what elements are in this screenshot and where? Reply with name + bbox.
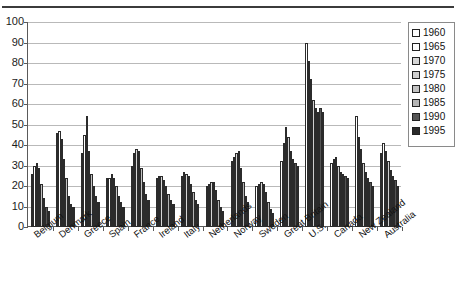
bar-group xyxy=(277,22,302,227)
y-tick-label: 100 xyxy=(0,16,24,27)
bar-group xyxy=(203,22,228,227)
y-tick-label: 40 xyxy=(0,139,24,150)
legend-label: 1995 xyxy=(423,126,445,136)
legend-item[interactable]: 1985 xyxy=(412,96,454,110)
legend-label: 1990 xyxy=(423,112,445,122)
legend-swatch-icon xyxy=(412,99,420,107)
bar-group xyxy=(53,22,78,227)
legend-swatch-icon xyxy=(412,29,420,37)
legend-swatch-icon xyxy=(412,113,420,121)
bar-group xyxy=(252,22,277,227)
legend-swatch-icon xyxy=(412,127,420,135)
legend-item[interactable]: 1960 xyxy=(412,26,454,40)
y-tick-label: 90 xyxy=(0,37,24,48)
legend-swatch-icon xyxy=(412,43,420,51)
legend-label: 1965 xyxy=(423,42,445,52)
bar-group xyxy=(302,22,327,227)
legend-label: 1970 xyxy=(423,56,445,66)
legend-swatch-icon xyxy=(412,85,420,93)
x-axis-labels: BelgiumDenmarkGreeceSpainFranceIrelandIt… xyxy=(0,229,462,305)
y-tick-label: 30 xyxy=(0,160,24,171)
legend-item[interactable]: 1990 xyxy=(412,110,454,124)
chart-figure: 0102030405060708090100 BelgiumDenmarkGre… xyxy=(0,0,462,305)
bar-groups xyxy=(28,22,401,227)
bar-group xyxy=(178,22,203,227)
legend-swatch-icon xyxy=(412,57,420,65)
bar-group xyxy=(103,22,128,227)
legend-item[interactable]: 1965 xyxy=(412,40,454,54)
legend-label: 1980 xyxy=(423,84,445,94)
legend-swatch-icon xyxy=(412,71,420,79)
bar-group xyxy=(128,22,153,227)
bar-group xyxy=(153,22,178,227)
bar-group xyxy=(28,22,53,227)
legend-label: 1975 xyxy=(423,70,445,80)
y-tick-label: 20 xyxy=(0,180,24,191)
y-tick-label: 80 xyxy=(0,57,24,68)
bar-group xyxy=(227,22,252,227)
legend-label: 1985 xyxy=(423,98,445,108)
legend-item[interactable]: 1980 xyxy=(412,82,454,96)
y-axis-labels: 0102030405060708090100 xyxy=(0,22,27,227)
bar-group xyxy=(327,22,352,227)
bar-group xyxy=(78,22,103,227)
header-divider xyxy=(2,6,454,8)
bar-group xyxy=(377,22,402,227)
bar-group xyxy=(352,22,377,227)
legend-item[interactable]: 1995 xyxy=(412,124,454,138)
chart-legend: 19601965197019751980198519901995 xyxy=(408,22,455,147)
legend-item[interactable]: 1970 xyxy=(412,54,454,68)
y-tick-label: 50 xyxy=(0,119,24,130)
legend-item[interactable]: 1975 xyxy=(412,68,454,82)
y-tick-mark xyxy=(24,227,28,228)
legend-label: 1960 xyxy=(423,28,445,38)
y-tick-label: 10 xyxy=(0,201,24,212)
y-tick-label: 70 xyxy=(0,78,24,89)
y-tick-label: 60 xyxy=(0,98,24,109)
